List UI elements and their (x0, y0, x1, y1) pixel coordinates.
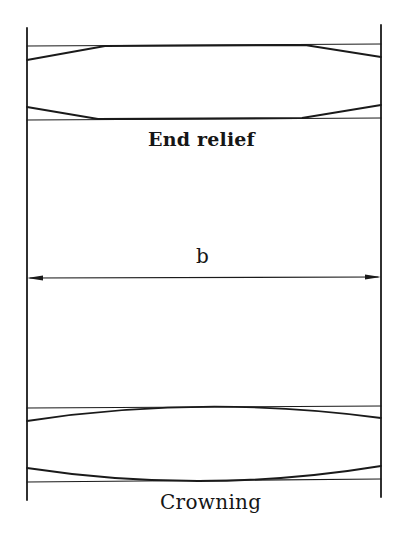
face-width-label: b (196, 246, 209, 266)
end-relief-label: End relief (148, 130, 255, 149)
crowning-panel (27, 406, 381, 482)
arrowhead-left-icon (27, 276, 43, 281)
end-relief-top-flank (27, 45, 381, 60)
crowning-top-flank (27, 407, 381, 421)
face-width-arrow-line (30, 277, 378, 278)
crowning-label: Crowning (160, 492, 261, 512)
arrowhead-right-icon (365, 275, 381, 280)
face-width-dimension (27, 275, 381, 281)
crowning-bottom-flank (27, 466, 381, 481)
gear-modification-diagram (0, 0, 401, 536)
end-relief-bottom-flank (27, 105, 381, 119)
end-relief-panel (27, 44, 381, 120)
